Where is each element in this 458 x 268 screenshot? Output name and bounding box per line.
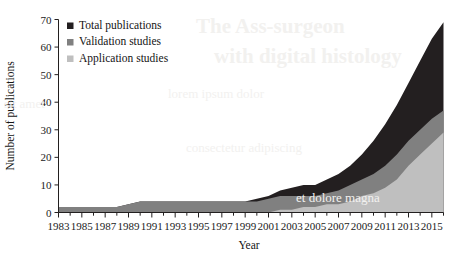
x-tick-label: 2001	[258, 220, 280, 232]
x-axis-title: Year	[238, 239, 259, 251]
x-tick-label: 2013	[398, 220, 421, 232]
y-tick-label: 30	[41, 124, 53, 136]
chart-canvas: 010203040506070 198319851987198919911993…	[0, 0, 458, 268]
x-tick-label: 2011	[374, 220, 396, 232]
y-tick-label: 50	[41, 69, 53, 81]
legend-label-2: Application studies	[79, 52, 169, 65]
legend: Total publicationsValidation studiesAppl…	[67, 19, 169, 65]
x-tick-label: 1991	[141, 220, 163, 232]
x-tick-label: 2007	[328, 220, 351, 232]
legend-swatch-0	[67, 23, 74, 30]
y-tick-label: 20	[41, 151, 53, 163]
x-tick-label: 1987	[94, 220, 117, 232]
y-axis-title: Number of publications	[4, 61, 17, 171]
x-tick-label: 2003	[281, 220, 304, 232]
y-tick-label: 10	[41, 179, 53, 191]
x-tick-label: 2005	[304, 220, 327, 232]
y-tick-labels-group: 010203040506070	[41, 14, 53, 219]
publications-stacked-area-chart: The Ass-surgeon with digital histology l…	[0, 0, 458, 268]
x-tick-label: 1989	[118, 220, 141, 232]
x-tick-label: 1983	[48, 220, 71, 232]
y-tick-label: 0	[46, 207, 52, 219]
x-tick-labels-group: 1983198519871989199119931995199719992001…	[48, 220, 444, 232]
legend-swatch-2	[67, 56, 74, 63]
x-tick-label: 2009	[351, 220, 374, 232]
x-tick-label: 1985	[71, 220, 94, 232]
x-tick-label: 1995	[188, 220, 211, 232]
y-tick-label: 40	[41, 96, 53, 108]
x-tick-label: 1993	[164, 220, 187, 232]
y-tick-label: 70	[41, 14, 53, 26]
legend-label-1: Validation studies	[79, 35, 162, 47]
x-tick-label: 2015	[421, 220, 444, 232]
legend-swatch-1	[67, 39, 74, 46]
y-tick-label: 60	[41, 41, 53, 53]
legend-label-0: Total publications	[79, 19, 162, 32]
x-tick-label: 1999	[234, 220, 257, 232]
x-tick-label: 1997	[211, 220, 234, 232]
